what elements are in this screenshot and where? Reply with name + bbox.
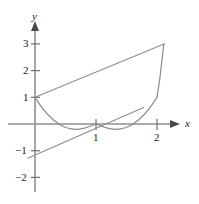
y-axis-label: y	[32, 11, 37, 22]
y-tick-label-minus-2: −2	[15, 172, 27, 183]
y-tick-label-2: 2	[23, 65, 29, 76]
graph-figure: 3 2 1 −1 −2 1 2 x y	[0, 0, 199, 204]
x-axis-label: x	[185, 118, 190, 129]
y-tick-label-minus-1: −1	[15, 145, 27, 156]
y-tick-label-1: 1	[23, 92, 29, 103]
plot-canvas	[0, 0, 199, 204]
x-axis-arrowhead	[170, 120, 180, 128]
parabola-right-branch	[157, 44, 164, 97]
x-tick-label-1: 1	[93, 132, 99, 143]
y-tick-label-3: 3	[23, 38, 29, 49]
tangent-line	[28, 107, 144, 158]
x-tick-label-2: 2	[154, 132, 160, 143]
y-axis-arrowhead	[31, 21, 39, 31]
secant-line	[35, 44, 164, 97]
